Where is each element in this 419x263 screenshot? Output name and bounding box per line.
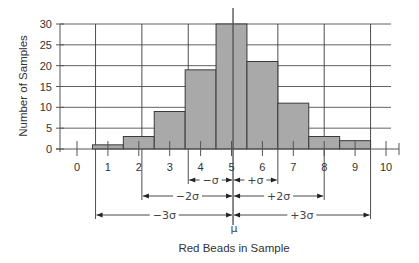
arrowhead-left-5 <box>234 213 240 218</box>
x-tick-label-6: 6 <box>259 161 265 173</box>
x-tick-label-2: 2 <box>136 161 142 173</box>
arrowhead-left-3 <box>234 194 240 199</box>
arrowhead-left-0 <box>189 178 195 183</box>
y-tick-label-30: 30 <box>40 18 52 30</box>
sigma-label-2: −2σ <box>176 190 199 203</box>
arrowhead-right-5 <box>364 213 370 218</box>
x-tick-label-8: 8 <box>321 161 327 173</box>
mean-label: μ <box>231 222 238 235</box>
y-tick-label-20: 20 <box>40 60 52 72</box>
x-tick-label-0: 0 <box>74 161 80 173</box>
x-tick-label-9: 9 <box>352 161 358 173</box>
y-tick-label-0: 0 <box>46 143 52 155</box>
y-axis-title: Number of Samples <box>17 35 29 137</box>
y-tick-label-15: 15 <box>40 81 52 93</box>
x-tick-label-4: 4 <box>198 161 204 173</box>
x-axis-title: Red Beads in Sample <box>178 242 289 254</box>
arrowhead-right-0 <box>226 178 232 183</box>
y-tick-label-10: 10 <box>40 101 52 113</box>
sigma-label-3: +2σ <box>267 190 290 203</box>
arrowhead-right-1 <box>271 178 277 183</box>
arrowhead-right-3 <box>317 194 323 199</box>
y-tick-label-25: 25 <box>40 39 52 51</box>
y-tick-label-5: 5 <box>46 122 52 134</box>
sigma-label-4: −3σ <box>153 209 176 222</box>
x-tick-label-10: 10 <box>380 161 392 173</box>
bar-4 <box>185 70 216 149</box>
sigma-label-1: +σ <box>247 174 263 187</box>
histogram-chart: 051015202530 012345678910 −σ+σ−2σ+2σ−3σ+… <box>0 0 419 263</box>
sigma-label-5: +3σ <box>290 209 313 222</box>
arrowhead-right-2 <box>226 194 232 199</box>
x-tick-label-7: 7 <box>290 161 296 173</box>
x-tick-label-5: 5 <box>228 161 234 173</box>
bar-6 <box>247 62 278 150</box>
bar-5 <box>216 24 247 149</box>
arrowhead-right-4 <box>226 213 232 218</box>
x-tick-label-3: 3 <box>167 161 173 173</box>
arrowhead-left-1 <box>234 178 240 183</box>
arrowhead-left-2 <box>143 194 149 199</box>
arrowhead-left-4 <box>97 213 103 218</box>
x-tick-label-1: 1 <box>105 161 111 173</box>
sigma-label-0: −σ <box>203 174 219 187</box>
